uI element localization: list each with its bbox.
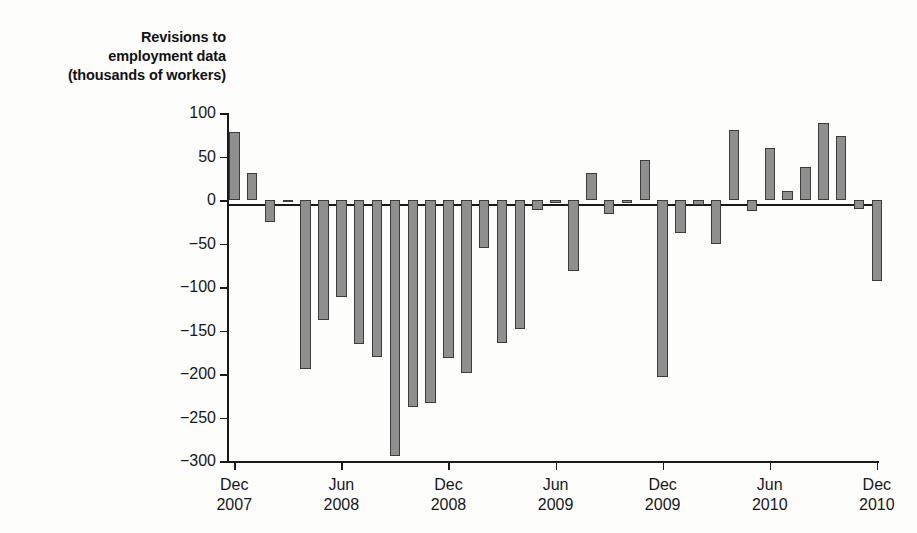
chart-title-line-1: Revisions to [60,28,226,47]
x-axis-label-month: Jun [324,475,360,495]
bar [657,200,668,377]
y-axis-tick [220,287,228,289]
bar [247,173,258,200]
y-axis-tick [220,461,228,463]
bar [354,200,365,344]
x-axis-label-year: 2009 [538,495,574,515]
x-axis-label-year: 2010 [859,495,895,515]
bar [550,200,561,203]
bar [854,200,865,209]
bar [782,191,793,200]
bar [586,173,597,200]
x-axis-label: Dec2008 [431,475,467,515]
chart-title: Revisions to employment data (thousands … [60,28,226,85]
bar [265,200,276,222]
bar [390,200,401,456]
x-axis-tick [234,462,236,470]
y-axis-tick [220,374,228,376]
bar [693,200,704,205]
x-axis-label: Dec2007 [216,475,252,515]
x-axis-label-month: Jun [538,475,574,495]
bar [497,200,508,343]
bar [461,200,472,373]
bar [818,123,829,200]
bar [711,200,722,244]
bar [747,200,758,211]
y-axis-tick [220,331,228,333]
bar [675,200,686,233]
chart-title-line-3: (thousands of workers) [60,66,226,85]
chart-title-line-2: employment data [60,47,226,66]
y-axis-label: 0 [207,191,216,209]
x-axis-tick [663,462,665,470]
bar [515,200,526,329]
bar [229,132,240,200]
x-axis-label: Jun2010 [752,475,788,515]
x-axis-label-year: 2009 [645,495,681,515]
bar [300,200,311,369]
x-axis-label: Dec2009 [645,475,681,515]
bar [872,200,883,281]
x-axis-label-year: 2008 [431,495,467,515]
bar [622,200,633,203]
bar [443,200,454,358]
y-axis-label: −300 [180,452,216,470]
bar [836,136,847,200]
x-axis-label-year: 2007 [216,495,252,515]
y-axis-tick [220,200,228,202]
x-axis-tick [877,462,879,470]
y-axis-tick [220,157,228,159]
bar [765,148,776,200]
bar [532,200,543,210]
bar [372,200,383,357]
bar [425,200,436,403]
chart-figure: Revisions to employment data (thousands … [0,0,917,533]
bar [408,200,419,407]
x-axis-tick [341,462,343,470]
y-axis-label: −200 [180,365,216,383]
x-axis-label-month: Jun [752,475,788,495]
x-axis-label-month: Dec [645,475,681,495]
y-axis-tick [220,244,228,246]
y-axis-tick [220,113,228,115]
y-axis-label: −100 [180,278,216,296]
bar [640,160,651,200]
bar [604,200,615,214]
y-axis-label: 50 [198,148,216,166]
x-axis-label-year: 2010 [752,495,788,515]
x-axis-label-year: 2008 [324,495,360,515]
bar [568,200,579,271]
x-axis-tick [770,462,772,470]
y-axis-label: 100 [189,104,216,122]
bar [318,200,329,320]
x-axis-label: Jun2008 [324,475,360,515]
x-axis-label: Dec2010 [859,475,895,515]
x-axis-tick [556,462,558,470]
y-axis-tick [220,418,228,420]
y-axis-label: −150 [180,322,216,340]
bar [800,167,811,200]
y-axis-label: −250 [180,409,216,427]
plot-area: 100500−50−100−150−200−250−300 Dec2007Jun… [227,113,879,463]
x-axis-line [227,461,879,463]
bar [729,130,740,200]
bar [479,200,490,248]
x-axis-label-month: Dec [859,475,895,495]
y-axis-label: −50 [189,235,216,253]
x-axis-tick [448,462,450,470]
x-axis-label: Jun2009 [538,475,574,515]
bar [336,200,347,297]
bar [283,200,294,202]
x-axis-label-month: Dec [431,475,467,495]
x-axis-label-month: Dec [216,475,252,495]
